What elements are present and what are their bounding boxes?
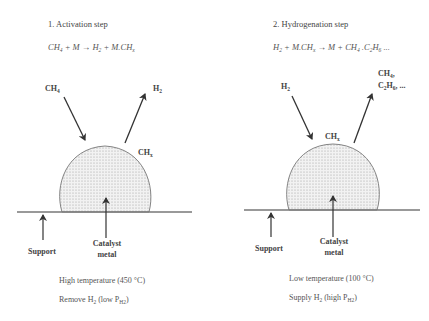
surface-species-label: CHx <box>138 148 153 158</box>
product-label: H2 <box>153 84 162 94</box>
catalyst-label-2: metal <box>97 250 117 259</box>
condition-temperature: High temperature (450 °C) <box>59 276 145 285</box>
panel-hydrogenation: 2. Hydrogenation step H2 + M.CHx → M + C… <box>244 19 420 303</box>
catalyst-label-2: metal <box>324 248 344 257</box>
reactant-arrow <box>292 96 312 139</box>
condition-temperature: Low temperature (100 °C) <box>289 274 374 283</box>
catalyst-label: Catalyst <box>320 237 349 246</box>
support-label: Support <box>28 247 56 256</box>
condition-hydrogen: Remove H2 (low PH2) <box>59 295 129 305</box>
product-arrow <box>354 94 372 143</box>
panel-title: 2. Hydrogenation step <box>273 19 348 29</box>
catalysis-diagram: 1. Activation step CH4 + M → H2 + M.CHx … <box>0 0 429 321</box>
catalyst-label: Catalyst <box>93 239 122 248</box>
reactant-arrow <box>64 97 85 140</box>
surface-species-label: CHx <box>325 132 340 142</box>
condition-hydrogen: Supply H2 (high PH2) <box>289 293 357 303</box>
reactant-label: CH4 <box>45 84 60 94</box>
reactant-label: H2 <box>281 82 290 92</box>
product-arrow <box>125 94 145 143</box>
reaction-equation: CH4 + M → H2 + M.CHx <box>48 42 135 53</box>
product-label: CH4, <box>378 69 395 79</box>
support-label: Support <box>255 244 283 253</box>
panel-title: 1. Activation step <box>48 19 108 29</box>
reaction-equation: H2 + M.CHx → M + CH4 .C2H6 ... <box>272 42 390 53</box>
panel-activation: 1. Activation step CH4 + M → H2 + M.CHx … <box>17 19 192 305</box>
product-label-2: C2H6, ... <box>378 81 406 91</box>
